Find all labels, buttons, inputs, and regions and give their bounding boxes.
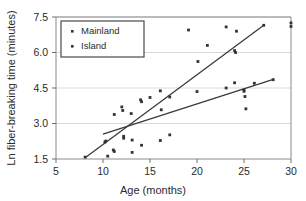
data-point [187,29,190,32]
data-point [159,89,162,92]
data-point [234,51,237,54]
x-tick-label: 25 [238,165,250,177]
data-point [197,60,200,63]
data-point [206,44,209,47]
data-point [225,87,228,90]
data-point [120,106,123,109]
data-point [140,144,143,147]
legend: Mainland Island [61,21,144,57]
scatter-plot-figure: 1.53.04.56.07.5 51015202530 Age (months)… [0,0,306,201]
y-tick-label: 6.0 [33,46,48,58]
data-point [262,24,265,27]
data-point [160,108,163,111]
data-point [233,81,236,84]
data-point [243,90,246,93]
data-point [149,96,152,99]
data-point [84,156,87,159]
x-axis-tick-labels: 51015202530 [53,165,297,177]
data-point [130,112,133,115]
data-point [253,82,256,85]
data-point [235,30,238,33]
x-axis-tick-marks [56,159,291,163]
data-point [272,78,275,81]
data-point [113,150,116,153]
y-tick-label: 1.5 [33,153,48,165]
data-point [159,139,162,142]
legend-marker-mainland [71,30,74,33]
x-axis-title: Age (months) [120,184,186,196]
y-axis-title: Ln fiber-breaking time (minutes) [5,10,17,165]
data-point [140,100,143,103]
data-point [122,137,125,140]
y-axis-tick-labels: 1.53.04.56.07.5 [33,11,48,165]
legend-marker-island [71,45,74,48]
data-point [104,140,107,143]
data-point [106,155,109,158]
y-tick-label: 3.0 [33,117,48,129]
data-point [225,26,228,29]
data-point [168,133,171,136]
data-point [290,22,293,25]
y-tick-label: 4.5 [33,82,48,94]
chart-canvas: 1.53.04.56.07.5 51015202530 Age (months)… [0,0,306,201]
legend-label-mainland: Mainland [81,25,120,36]
y-tick-label: 7.5 [33,11,48,23]
data-point [121,109,124,112]
data-point [196,90,199,93]
data-point [244,107,247,110]
x-tick-label: 5 [53,165,59,177]
data-point [290,25,293,28]
x-tick-label: 10 [97,165,109,177]
data-point [113,113,116,116]
data-point [131,151,134,154]
data-point [244,95,247,98]
legend-label-island: Island [81,40,106,51]
y-axis-tick-marks [52,17,56,159]
x-tick-label: 20 [191,165,203,177]
data-point [131,139,134,142]
data-point [168,96,171,99]
x-tick-label: 30 [285,165,297,177]
x-tick-label: 15 [144,165,156,177]
